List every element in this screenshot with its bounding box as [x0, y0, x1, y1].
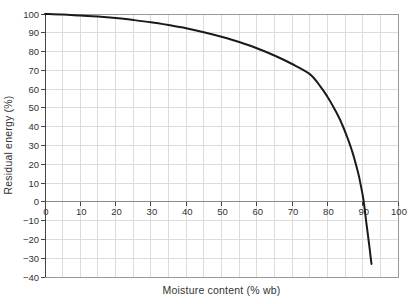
y-tick-label: 90 — [28, 27, 39, 38]
y-tick-label: 100 — [23, 9, 39, 20]
x-tick-label: 100 — [391, 206, 407, 217]
chart-figure: 0102030405060708090100100908070605040302… — [0, 0, 416, 304]
y-tick-label: 40 — [28, 121, 39, 132]
x-tick-label: 70 — [288, 206, 299, 217]
x-tick-label: 60 — [253, 206, 264, 217]
y-tick-label: 10 — [28, 178, 39, 189]
x-tick-label: 10 — [76, 206, 87, 217]
y-tick-label: 0 — [34, 196, 39, 207]
y-tick-label: −40 — [23, 272, 39, 283]
y-tick-label: −10 — [23, 215, 39, 226]
x-tick-label: 50 — [217, 206, 228, 217]
y-axis-title: Residual energy (%) — [2, 96, 14, 195]
y-tick-label: −20 — [23, 234, 39, 245]
x-tick-label: 40 — [182, 206, 193, 217]
y-tick-label: 30 — [28, 140, 39, 151]
y-tick-label: 70 — [28, 65, 39, 76]
x-tick-label: 30 — [147, 206, 158, 217]
y-tick-label: 20 — [28, 159, 39, 170]
x-tick-label: 20 — [111, 206, 122, 217]
x-tick-label: 0 — [43, 206, 48, 217]
y-tick-label: 80 — [28, 46, 39, 57]
x-axis-title: Moisture content (% wb) — [45, 284, 398, 296]
x-tick-label: 80 — [323, 206, 334, 217]
y-tick-label: −30 — [23, 253, 39, 264]
chart-canvas: 0102030405060708090100100908070605040302… — [0, 0, 416, 304]
y-tick-label: 60 — [28, 84, 39, 95]
y-tick-label: 50 — [28, 102, 39, 113]
